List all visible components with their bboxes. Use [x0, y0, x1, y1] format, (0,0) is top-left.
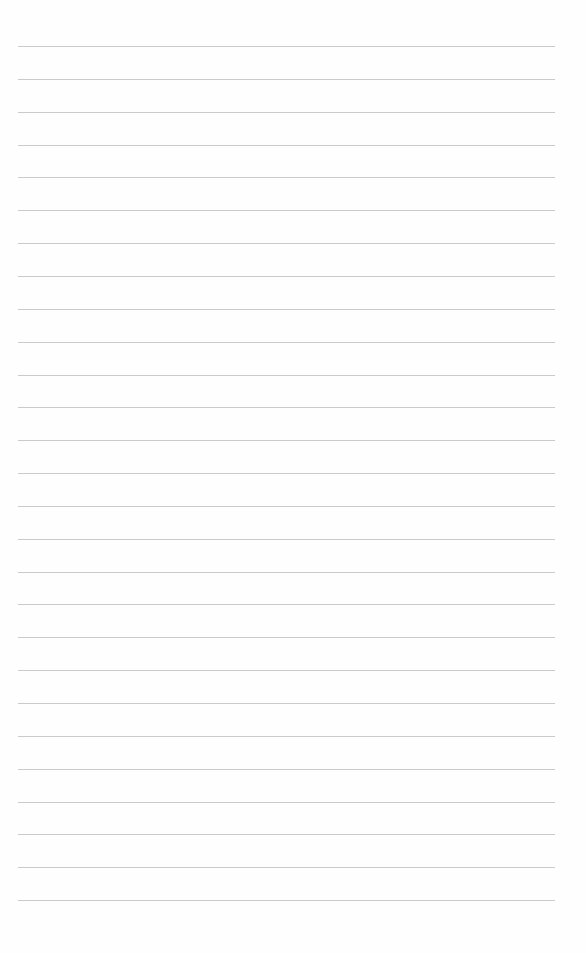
- ruled-line: [18, 407, 555, 408]
- ruled-line: [18, 46, 555, 47]
- ruled-line: [18, 112, 555, 113]
- ruled-line: [18, 604, 555, 605]
- ruled-line: [18, 440, 555, 441]
- ruled-line: [18, 572, 555, 573]
- ruled-line: [18, 539, 555, 540]
- ruled-line: [18, 342, 555, 343]
- ruled-line: [18, 506, 555, 507]
- ruled-line: [18, 736, 555, 737]
- ruled-line: [18, 375, 555, 376]
- ruled-line: [18, 79, 555, 80]
- ruled-line: [18, 802, 555, 803]
- ruled-line: [18, 309, 555, 310]
- ruled-line: [18, 703, 555, 704]
- ruled-line: [18, 276, 555, 277]
- ruled-line: [18, 210, 555, 211]
- ruled-line: [18, 145, 555, 146]
- ruled-line: [18, 900, 555, 901]
- ruled-line: [18, 473, 555, 474]
- ruled-line: [18, 177, 555, 178]
- ruled-line: [18, 637, 555, 638]
- ruled-line: [18, 243, 555, 244]
- ruled-line: [18, 834, 555, 835]
- ruled-line: [18, 769, 555, 770]
- lined-paper-page: [0, 0, 586, 953]
- ruled-line: [18, 867, 555, 868]
- ruled-line: [18, 670, 555, 671]
